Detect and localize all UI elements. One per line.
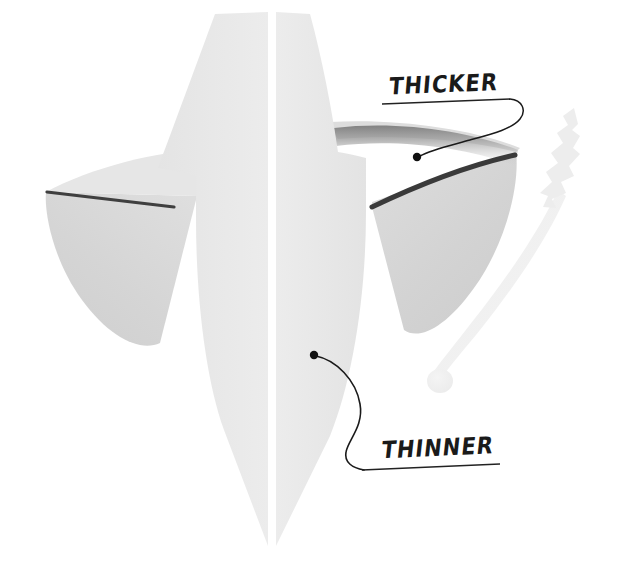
thicker-underline [382, 99, 510, 104]
thinner-pointer-dot [310, 351, 318, 359]
left-wing [46, 150, 205, 346]
left-wing-body [46, 192, 196, 346]
ghost-arrow-knob [427, 369, 453, 393]
annotation-label-thicker: THICKER [388, 69, 499, 100]
thinner-underline [362, 464, 500, 470]
annotation-label-thinner: THINNER [380, 432, 495, 464]
blade-diagram [0, 0, 621, 578]
illustration-canvas: THICKER THINNER [0, 0, 621, 578]
thicker-pointer-dot [413, 153, 421, 161]
ghost-arrow-feather-tip [540, 108, 580, 208]
